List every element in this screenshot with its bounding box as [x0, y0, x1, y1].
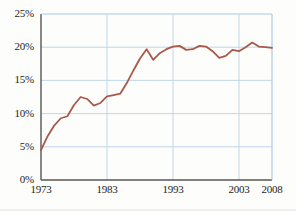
x-tick-label-2008: 2008 — [252, 183, 292, 195]
x-tick-label-1983: 1983 — [87, 183, 127, 195]
vertical-gridlines — [107, 14, 239, 180]
series-line — [41, 43, 272, 151]
x-tick-label-1993: 1993 — [153, 183, 193, 195]
y-tick-label-10pct: 10% — [2, 107, 34, 119]
data-series-group — [41, 43, 272, 151]
y-tick-label-25pct: 25% — [2, 7, 34, 19]
horizontal-gridlines — [41, 14, 272, 147]
page-bottom-rule — [0, 209, 296, 211]
axis-lines — [41, 14, 272, 180]
y-tick-label-20pct: 20% — [2, 40, 34, 52]
chart-figure: 0%5%10%15%20%25% 19731983199320032008 — [0, 0, 296, 212]
x-tick-label-1973: 1973 — [21, 183, 61, 195]
y-tick-label-5pct: 5% — [2, 140, 34, 152]
y-tick-label-15pct: 15% — [2, 73, 34, 85]
chart-plot-area — [0, 0, 296, 212]
